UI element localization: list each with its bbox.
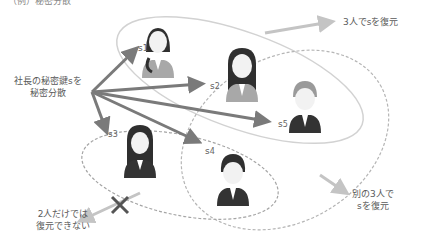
outcome-fail: 2人だけでは 復元できない [36,208,90,232]
person-s2 [226,48,258,102]
person-s5 [289,81,321,133]
source-label-line2: 秘密分散 [14,87,82,99]
outcome-group-b: 別の3人で sを復元 [352,188,394,212]
outcome-group-a: 3人でsを復元 [343,16,398,28]
outcome-fail-line2: 復元できない [36,220,90,232]
share-label-s3: s3 [108,128,118,141]
outcome-fail-line1: 2人だけでは [36,208,90,220]
outcome-group-b-line1: 別の3人で [352,188,394,200]
source-label-line1: 社長の秘密鍵sを [14,75,82,87]
share-label-s5: s5 [278,118,288,131]
person-s4 [217,154,249,206]
share-label-s2: s2 [210,80,220,93]
share-label-s1: s1 [138,42,148,55]
source-label: 社長の秘密鍵sを 秘密分散 [14,75,82,99]
outcome-group-b-line2: sを復元 [352,200,394,212]
person-s3 [124,125,156,178]
share-label-s4: s4 [205,145,215,158]
